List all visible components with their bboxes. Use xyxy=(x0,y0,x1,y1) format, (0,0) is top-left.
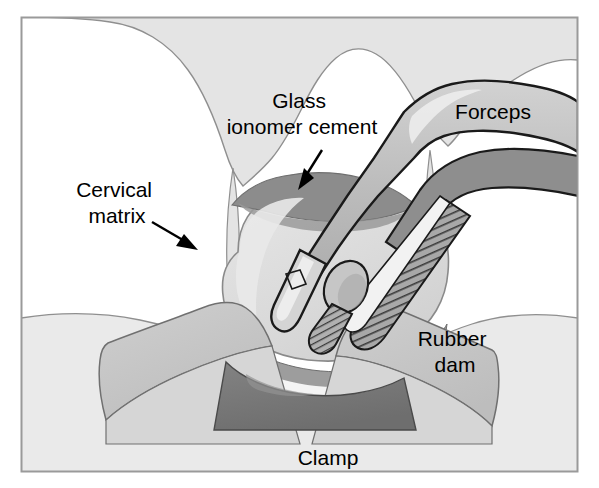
label-glass-ionomer-line-1: Glass xyxy=(272,89,326,112)
label-clamp: Clamp xyxy=(298,446,359,469)
label-cervical-matrix-line-2: matrix xyxy=(88,204,146,227)
label-rubber-dam-line-1: Rubber xyxy=(418,327,487,350)
label-rubber-dam-line-2: dam xyxy=(435,353,476,376)
illustration-content: Glass ionomer cement Forceps Cervical ma… xyxy=(21,17,578,472)
label-cervical-matrix-line-1: Cervical xyxy=(76,178,152,201)
dental-illustration-figure: Glass ionomer cement Forceps Cervical ma… xyxy=(0,0,599,488)
label-glass-ionomer-line-2: ionomer cement xyxy=(227,115,378,138)
label-forceps-line-1: Forceps xyxy=(455,100,531,123)
label-forceps: Forceps xyxy=(455,100,531,123)
illustration-canvas: Glass ionomer cement Forceps Cervical ma… xyxy=(0,0,599,488)
label-clamp-line-1: Clamp xyxy=(298,446,359,469)
